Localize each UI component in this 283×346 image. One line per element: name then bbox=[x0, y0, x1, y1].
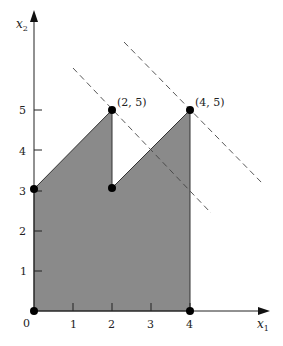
x-tick-label: 4 bbox=[186, 318, 193, 331]
vertex-4-5 bbox=[186, 106, 194, 114]
y-axis-label: x2 bbox=[16, 17, 28, 33]
x-tick-label: 3 bbox=[147, 318, 154, 331]
y-tick-label: 3 bbox=[19, 185, 26, 198]
lp-feasible-region-diagram: 0 1 2 3 4 1 2 3 4 5 x2 x1 (2, 5) (4, 5) bbox=[0, 0, 283, 346]
x-axis-arrow-icon bbox=[258, 307, 270, 315]
y-tick-label: 1 bbox=[20, 265, 27, 278]
vertex-2-5 bbox=[108, 106, 116, 114]
x-tick-label: 1 bbox=[70, 318, 77, 331]
vertex-2-3 bbox=[108, 184, 116, 192]
point-label-4-5: (4, 5) bbox=[195, 96, 225, 109]
x-tick-label: 2 bbox=[108, 318, 115, 331]
y-tick-label: 4 bbox=[19, 145, 26, 158]
vertex-4-0 bbox=[186, 307, 194, 315]
x-axis-label: x1 bbox=[257, 317, 269, 333]
y-tick-label: 2 bbox=[19, 225, 26, 238]
vertex-0-3 bbox=[30, 185, 38, 193]
origin-label: 0 bbox=[23, 317, 30, 330]
point-label-2-5: (2, 5) bbox=[117, 96, 147, 109]
vertex-0-0 bbox=[30, 307, 38, 315]
y-axis-arrow-icon bbox=[30, 10, 38, 22]
feasible-region bbox=[34, 110, 190, 311]
y-tick-label: 5 bbox=[19, 104, 26, 117]
